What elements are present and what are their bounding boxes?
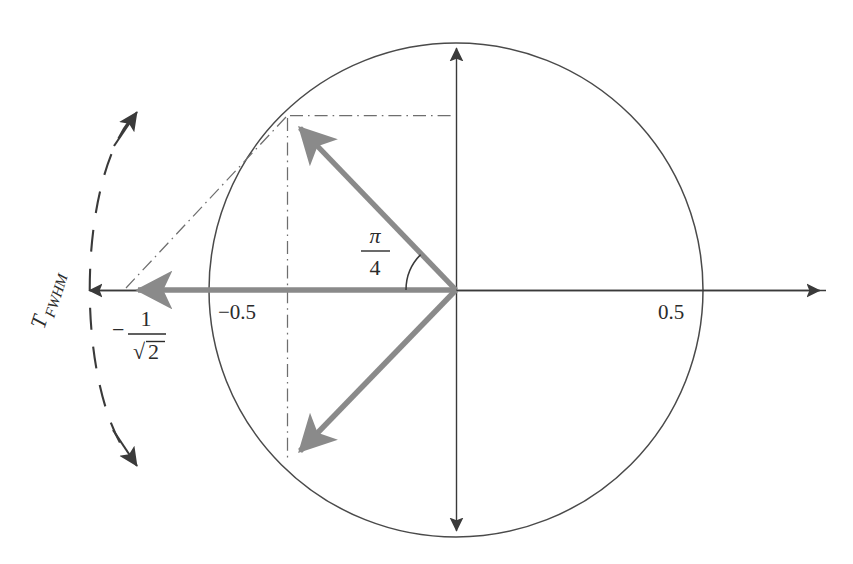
value-fraction-label: − 1 √ 2 [112,306,166,364]
fwhm-label: T FWHM [25,266,71,332]
fwhm-subscript: FWHM [41,270,71,320]
fwhm-arc-upper-arrowhead [114,112,137,146]
angle-fraction-label: π 4 [361,223,390,280]
angle-denominator: 4 [370,255,381,280]
tick-label-negative-half: −0.5 [218,300,256,324]
construction-diagonal-dashdot [126,117,286,288]
angle-numerator: π [369,223,381,248]
value-minus-sign: − [112,317,124,342]
value-denominator-radical: √ [133,339,146,364]
value-numerator: 1 [141,306,152,331]
phasor-diagram: −0.5 0.5 π 4 − 1 √ 2 T FWHM [0,0,853,564]
lower-phasor-vector [300,290,456,451]
figure-root: −0.5 0.5 π 4 − 1 √ 2 T FWHM [0,0,853,564]
value-denominator-radicand: 2 [148,339,159,364]
angle-arc [406,255,421,290]
tick-label-positive-half: 0.5 [658,300,684,324]
fwhm-arc-lower-arrowhead [113,430,137,466]
